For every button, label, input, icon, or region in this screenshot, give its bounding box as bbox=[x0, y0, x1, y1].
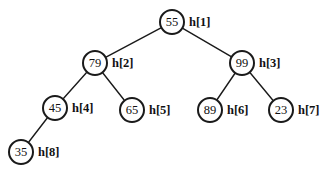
tree-node-h6: 89 h[6] bbox=[197, 97, 249, 123]
node-key-circle: 35 bbox=[8, 139, 34, 165]
node-index-label: h[7] bbox=[298, 104, 320, 117]
node-index-label: h[2] bbox=[112, 57, 134, 70]
node-key-circle: 79 bbox=[82, 50, 108, 76]
node-index-label: h[6] bbox=[227, 104, 249, 117]
node-key-circle: 99 bbox=[229, 50, 255, 76]
node-index-label: h[4] bbox=[72, 102, 94, 115]
node-key-circle: 45 bbox=[42, 95, 68, 121]
node-key-circle: 23 bbox=[268, 97, 294, 123]
tree-node-h3: 99 h[3] bbox=[229, 50, 281, 76]
tree-node-h4: 45 h[4] bbox=[42, 95, 94, 121]
node-index-label: h[8] bbox=[38, 146, 60, 159]
node-key-circle: 55 bbox=[159, 9, 185, 35]
node-key-circle: 65 bbox=[119, 97, 145, 123]
tree-edge bbox=[103, 73, 124, 100]
node-key-circle: 89 bbox=[197, 97, 223, 123]
node-index-label: h[3] bbox=[259, 57, 281, 70]
tree-edge bbox=[217, 74, 234, 100]
node-index-label: h[1] bbox=[189, 16, 211, 29]
tree-edge bbox=[250, 73, 272, 100]
tree-node-h1: 55 h[1] bbox=[159, 9, 211, 35]
binary-tree-diagram: 55 h[1] 79 h[2] 99 h[3] 45 h[4] 65 h[5] … bbox=[0, 0, 335, 175]
tree-node-h7: 23 h[7] bbox=[268, 97, 320, 123]
node-index-label: h[5] bbox=[149, 104, 171, 117]
tree-node-h5: 65 h[5] bbox=[119, 97, 171, 123]
tree-node-h8: 35 h[8] bbox=[8, 139, 60, 165]
tree-node-h2: 79 h[2] bbox=[82, 50, 134, 76]
